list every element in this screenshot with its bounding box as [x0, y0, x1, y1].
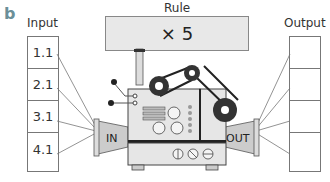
- machine-illustration: IN OUT: [0, 0, 330, 182]
- in-label: IN: [106, 132, 117, 145]
- out-label: OUT: [226, 132, 250, 145]
